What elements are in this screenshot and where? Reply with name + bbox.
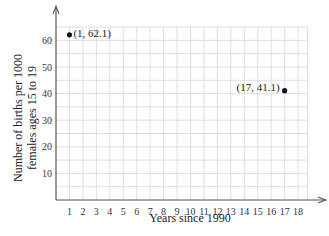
x-tick-label: 2 xyxy=(80,206,85,217)
y-axis-label-line2: females ages 15 to 19 xyxy=(25,66,39,170)
x-tick-label: 5 xyxy=(121,206,126,217)
x-tick-label: 6 xyxy=(134,206,139,217)
y-tick-label: 50 xyxy=(42,62,52,73)
x-axis-label: Years since 1990 xyxy=(149,211,230,225)
y-axis-label-line1: Number of births per 1000 xyxy=(11,54,25,182)
x-tick-label: 4 xyxy=(107,206,112,217)
data-point xyxy=(67,32,72,37)
x-tick-label: 15 xyxy=(253,206,263,217)
y-tick-labels: 102030405060 xyxy=(42,35,52,179)
x-tick-label: 3 xyxy=(94,206,99,217)
x-tick-label: 17 xyxy=(280,206,290,217)
grid-lines xyxy=(56,27,308,200)
point-label: (17, 41.1) xyxy=(237,81,280,94)
y-tick-label: 30 xyxy=(42,115,52,126)
x-tick-label: 18 xyxy=(293,206,303,217)
y-tick-label: 10 xyxy=(42,168,52,179)
x-tick-label: 14 xyxy=(239,206,249,217)
y-tick-label: 60 xyxy=(42,35,52,46)
x-tick-label: 1 xyxy=(67,206,72,217)
y-tick-label: 40 xyxy=(42,88,52,99)
x-tick-label: 16 xyxy=(266,206,276,217)
y-tick-label: 20 xyxy=(42,141,52,152)
point-label: (1, 62.1) xyxy=(73,27,111,40)
scatter-chart: 123456789101112131415161718 102030405060… xyxy=(0,0,329,236)
data-point xyxy=(282,88,287,93)
